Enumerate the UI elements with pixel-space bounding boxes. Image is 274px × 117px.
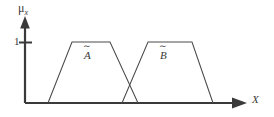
y-axis-arrow-icon	[20, 16, 30, 29]
fuzzy-set-a-label: ∼A	[84, 50, 91, 61]
fuzzy-set-b-label: ∼B	[160, 50, 167, 61]
fuzzy-set-a-tilde-icon: ∼	[83, 42, 91, 51]
x-axis-label: X	[252, 94, 259, 105]
fuzzy-set-a-shape	[48, 42, 138, 103]
fuzzy-membership-figure: μx 1 X ∼A ∼B	[0, 0, 274, 117]
plot-canvas	[0, 0, 274, 117]
fuzzy-set-b-shape	[122, 42, 213, 103]
y-tick-label-1: 1	[14, 36, 20, 47]
y-axis-label: μx	[18, 2, 28, 17]
y-axis-label-subscript: x	[24, 8, 28, 17]
x-axis-arrow-icon	[232, 98, 247, 109]
fuzzy-set-b-tilde-icon: ∼	[159, 42, 167, 51]
